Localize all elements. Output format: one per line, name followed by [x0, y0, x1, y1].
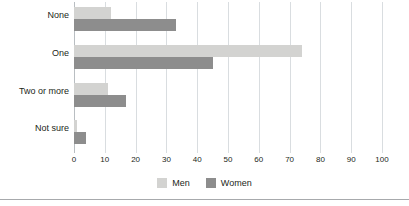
legend: Men Women [0, 176, 409, 190]
x-tick-0: 0 [72, 155, 76, 165]
category-label-two-or-more: Two or more [0, 86, 69, 97]
x-tick-70: 70 [285, 155, 294, 165]
bar-women-two-or-more [74, 95, 126, 107]
legend-swatch-men [157, 178, 167, 188]
x-tick-20: 20 [131, 155, 140, 165]
plot-area [74, 2, 382, 153]
bar-group-one [74, 40, 382, 78]
bottom-rule [0, 199, 409, 200]
category-label-one: One [0, 48, 69, 59]
legend-item-men: Men [157, 178, 190, 188]
bar-group-not-sure [74, 115, 382, 153]
x-tick-30: 30 [162, 155, 171, 165]
x-tick-60: 60 [254, 155, 263, 165]
bar-group-none [74, 2, 382, 40]
bar-men-two-or-more [74, 83, 108, 95]
bar-men-one [74, 45, 302, 57]
legend-item-women: Women [206, 178, 252, 188]
gridline-100 [382, 2, 383, 153]
bar-women-not-sure [74, 132, 86, 144]
bar-men-none [74, 7, 111, 19]
category-label-none: None [0, 10, 69, 21]
bar-women-one [74, 57, 213, 69]
bar-women-none [74, 19, 176, 31]
category-axis: None One Two or more Not sure [0, 2, 69, 153]
legend-label-women: Women [221, 178, 252, 188]
x-tick-10: 10 [100, 155, 109, 165]
legend-label-men: Men [172, 178, 190, 188]
bar-group-two-or-more [74, 78, 382, 116]
x-tick-40: 40 [193, 155, 202, 165]
category-label-not-sure: Not sure [0, 123, 69, 134]
x-axis: 0 10 20 30 40 50 60 70 80 90 100 [74, 155, 382, 169]
bar-chart: None One Two or more Not sure [0, 0, 409, 206]
x-tick-100: 100 [375, 155, 388, 165]
x-tick-80: 80 [316, 155, 325, 165]
x-tick-90: 90 [347, 155, 356, 165]
legend-swatch-women [206, 178, 216, 188]
bar-men-not-sure [74, 120, 77, 132]
x-tick-50: 50 [224, 155, 233, 165]
